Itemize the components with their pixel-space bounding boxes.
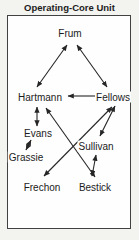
- node-frechon: Frechon: [23, 182, 62, 193]
- node-grassie: Grassie: [8, 152, 44, 163]
- figure: Operating-Core Unit FrumHartmannFellowsE…: [0, 0, 139, 240]
- node-frum: Frum: [57, 28, 82, 39]
- node-fellows: Fellows: [95, 92, 131, 103]
- node-bestick: Bestick: [78, 182, 112, 193]
- node-evans: Evans: [23, 128, 53, 139]
- diagram-nodes-layer: FrumHartmannFellowsEvansSullivanGrassieF…: [0, 0, 139, 240]
- node-sullivan: Sullivan: [77, 141, 114, 152]
- node-hartmann: Hartmann: [17, 92, 63, 103]
